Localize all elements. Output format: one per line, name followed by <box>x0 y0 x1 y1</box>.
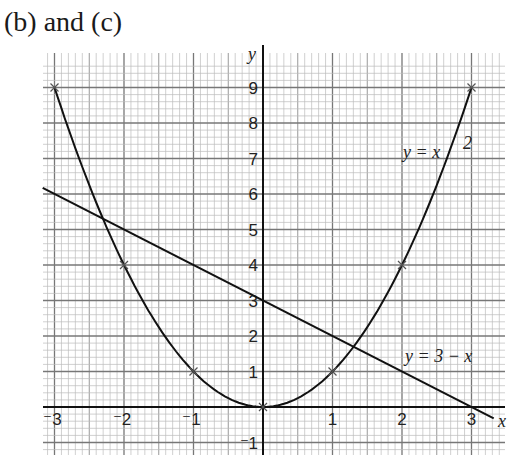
y-axis-label: y <box>246 44 256 64</box>
x-tick-label: 3 <box>467 410 476 429</box>
x-tick-label: ⁻3 <box>43 410 61 429</box>
y-tick-label: 5 <box>249 221 258 240</box>
y-tick-label: 4 <box>249 256 258 275</box>
x-tick-label: 2 <box>397 410 406 429</box>
graph-plot: ⁻3⁻2⁻1123⁻1123456789xyy = x2y = 3 − x <box>0 0 528 459</box>
grid <box>43 53 505 455</box>
y-tick-label: 1 <box>249 363 258 382</box>
parabola-label: y = x <box>401 142 440 162</box>
x-tick-label: ⁻2 <box>113 410 131 429</box>
y-tick-label: 9 <box>249 79 258 98</box>
line-label: y = 3 − x <box>403 346 472 366</box>
parabola-label-exponent: 2 <box>463 133 472 153</box>
x-tick-label: 1 <box>328 410 337 429</box>
y-tick-label: 7 <box>249 150 258 169</box>
y-tick-label: 6 <box>249 185 258 204</box>
y-tick-label: ⁻1 <box>240 434 258 453</box>
x-axis-label: x <box>497 411 506 431</box>
y-tick-label: 2 <box>249 327 258 346</box>
x-tick-label: ⁻1 <box>182 410 200 429</box>
y-tick-label: 8 <box>249 114 258 133</box>
